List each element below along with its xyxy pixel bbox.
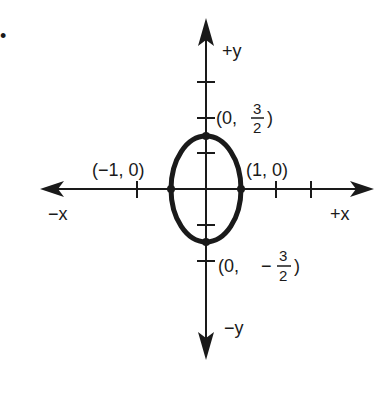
svg-text:3: 3 (253, 100, 261, 117)
y-neg-label: −y (224, 318, 244, 338)
label-top-point: (0, 3 2 ) (216, 100, 273, 136)
label-left-point: (−1, 0) (92, 160, 145, 180)
x-pos-label: +x (330, 204, 350, 224)
point-right (237, 185, 245, 193)
svg-text:): ) (267, 108, 273, 128)
svg-text:(0,: (0, (218, 256, 239, 276)
svg-text:): ) (294, 256, 300, 276)
point-left (167, 185, 175, 193)
svg-text:3: 3 (279, 247, 287, 264)
label-bottom-point: (0, − 3 2 ) (218, 247, 300, 284)
x-neg-label: −x (48, 204, 68, 224)
point-top (202, 132, 210, 140)
ellipse-diagram: • +y −y −x +x (−1, 0) (1, 0) (0, 3 2 ) (0, 0, 388, 399)
svg-text:(0,: (0, (216, 108, 237, 128)
bullet-mark: • (0, 26, 6, 46)
point-bottom (202, 238, 210, 246)
label-right-point: (1, 0) (246, 160, 288, 180)
y-pos-label: +y (222, 41, 242, 61)
svg-text:2: 2 (253, 119, 261, 136)
svg-text:2: 2 (279, 267, 287, 284)
svg-text:−: − (261, 256, 272, 276)
